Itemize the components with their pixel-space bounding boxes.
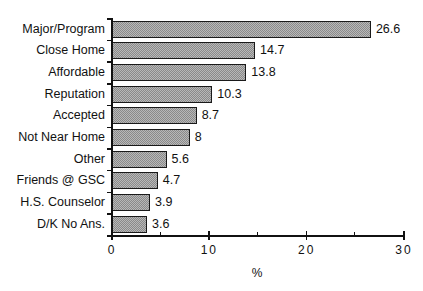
value-label: 10.3	[217, 86, 241, 103]
value-label: 8.7	[202, 107, 219, 124]
category-label: Other	[74, 151, 105, 168]
y-tick	[107, 127, 112, 129]
value-label: 14.7	[260, 42, 284, 59]
horizontal-bar-chart: Major/Program26.6Close Home14.7Affordabl…	[0, 0, 423, 291]
y-tick	[107, 170, 112, 172]
y-tick	[107, 18, 112, 20]
x-minor-tick	[257, 232, 258, 236]
x-major-tick	[306, 231, 308, 240]
category-label: Affordable	[48, 64, 105, 81]
bar	[112, 194, 150, 211]
x-major-tick	[403, 231, 405, 240]
bar	[112, 172, 158, 189]
x-minor-tick	[160, 232, 161, 236]
value-label: 26.6	[376, 21, 400, 38]
value-label: 4.7	[163, 172, 180, 189]
value-label: 3.9	[155, 194, 172, 211]
bar	[112, 21, 371, 38]
y-tick	[107, 148, 112, 150]
value-label: 13.8	[251, 64, 275, 81]
x-tick-label: 30	[395, 243, 412, 257]
category-label: H.S. Counselor	[20, 194, 105, 211]
category-label: D/K No Ans.	[37, 216, 105, 233]
bar	[112, 129, 190, 146]
x-tick-label: 10	[201, 243, 218, 257]
x-major-tick	[111, 231, 113, 240]
x-minor-tick	[354, 232, 355, 236]
y-tick	[107, 192, 112, 194]
bar	[112, 216, 147, 233]
bar	[112, 151, 167, 168]
value-label: 8	[195, 129, 202, 146]
category-label: Reputation	[45, 86, 105, 103]
y-tick	[107, 105, 112, 107]
y-tick	[107, 61, 112, 63]
y-tick	[107, 40, 112, 42]
category-label: Accepted	[53, 107, 105, 124]
bar	[112, 42, 255, 59]
value-label: 5.6	[172, 151, 189, 168]
x-axis-label: %	[252, 266, 263, 280]
bar	[112, 86, 212, 103]
category-label: Close Home	[36, 42, 105, 59]
bar	[112, 64, 246, 81]
bar	[112, 107, 197, 124]
x-tick-label: 20	[298, 243, 315, 257]
y-tick	[107, 213, 112, 215]
category-label: Major/Program	[22, 21, 105, 38]
category-label: Friends @ GSC	[17, 172, 105, 189]
x-major-tick	[208, 231, 210, 240]
x-tick-label: 0	[108, 243, 117, 257]
y-tick	[107, 83, 112, 85]
value-label: 3.6	[152, 216, 169, 233]
category-label: Not Near Home	[18, 129, 105, 146]
